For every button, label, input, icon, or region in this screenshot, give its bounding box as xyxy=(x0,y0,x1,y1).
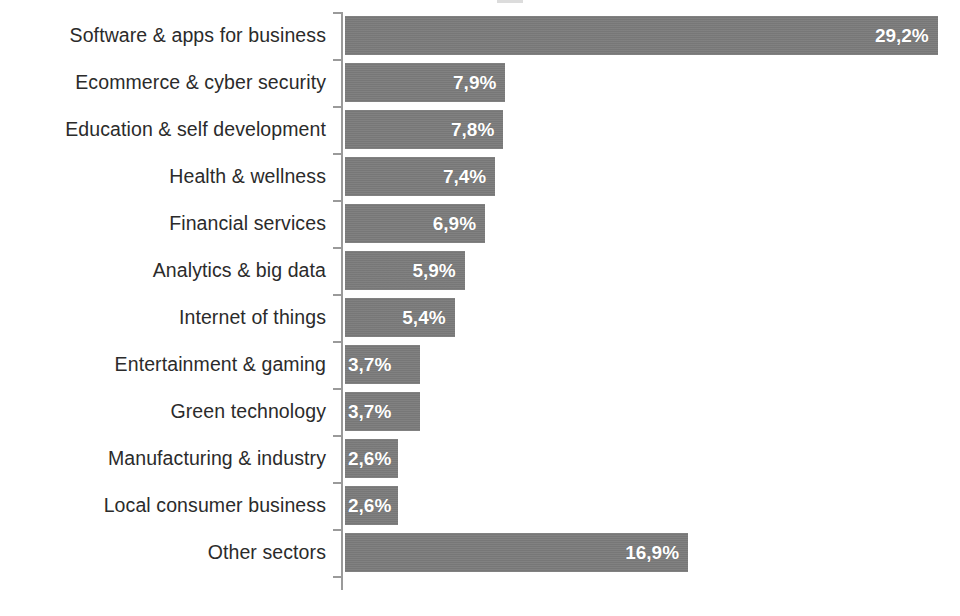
bar-value-label: 2,6% xyxy=(348,486,391,525)
bar-wrapper: 7,4% xyxy=(345,157,495,196)
bar[interactable]: 3,7% xyxy=(345,392,420,431)
axis-tick xyxy=(333,482,342,484)
bar[interactable]: 7,9% xyxy=(345,63,505,102)
axis-tick xyxy=(333,153,342,155)
bar[interactable]: 5,9% xyxy=(345,251,465,290)
bar-wrapper: 29,2% xyxy=(345,16,938,55)
bar-rows: Software & apps for business29,2%Ecommer… xyxy=(0,12,960,590)
bar-wrapper: 16,9% xyxy=(345,533,688,572)
clipped-title-remnant xyxy=(497,0,523,3)
bar-row: Software & apps for business29,2% xyxy=(0,12,960,59)
bar-wrapper: 2,6% xyxy=(345,486,398,525)
axis-tick xyxy=(333,59,342,61)
bar-row: Ecommerce & cyber security7,9% xyxy=(0,59,960,106)
bar-value-label: 7,9% xyxy=(453,63,496,102)
bar-value-label: 5,4% xyxy=(402,298,445,337)
axis-tick xyxy=(333,435,342,437)
bar-row: Other sectors16,9% xyxy=(0,529,960,576)
bar[interactable]: 16,9% xyxy=(345,533,688,572)
bar-value-label: 3,7% xyxy=(348,392,391,431)
axis-tick xyxy=(333,388,342,390)
bar-value-label: 3,7% xyxy=(348,345,391,384)
bar-value-label: 16,9% xyxy=(625,533,679,572)
bar-row: Green technology3,7% xyxy=(0,388,960,435)
axis-tick xyxy=(333,106,342,108)
category-label: Green technology xyxy=(0,388,326,435)
bar-row: Health & wellness7,4% xyxy=(0,153,960,200)
plot-area: Software & apps for business29,2%Ecommer… xyxy=(0,12,960,604)
bar[interactable]: 7,4% xyxy=(345,157,495,196)
category-label: Analytics & big data xyxy=(0,247,326,294)
bar[interactable]: 5,4% xyxy=(345,298,455,337)
bar-value-label: 6,9% xyxy=(433,204,476,243)
bar[interactable]: 29,2% xyxy=(345,16,938,55)
bar[interactable]: 2,6% xyxy=(345,439,398,478)
axis-tick xyxy=(333,200,342,202)
axis-tick xyxy=(333,294,342,296)
category-label: Health & wellness xyxy=(0,153,326,200)
bar-wrapper: 7,9% xyxy=(345,63,505,102)
bar-value-label: 2,6% xyxy=(348,439,391,478)
category-label: Entertainment & gaming xyxy=(0,341,326,388)
bar-wrapper: 6,9% xyxy=(345,204,485,243)
bar-value-label: 5,9% xyxy=(412,251,455,290)
bar-row: Financial services6,9% xyxy=(0,200,960,247)
bar-value-label: 7,4% xyxy=(443,157,486,196)
axis-tick xyxy=(333,12,342,14)
bar-row: Education & self development7,8% xyxy=(0,106,960,153)
category-label: Ecommerce & cyber security xyxy=(0,59,326,106)
bar-row: Analytics & big data5,9% xyxy=(0,247,960,294)
bar-wrapper: 5,4% xyxy=(345,298,455,337)
axis-tick xyxy=(333,247,342,249)
bar-wrapper: 7,8% xyxy=(345,110,503,149)
bar[interactable]: 3,7% xyxy=(345,345,420,384)
category-label: Software & apps for business xyxy=(0,12,326,59)
bar-value-label: 7,8% xyxy=(451,110,494,149)
category-label: Other sectors xyxy=(0,529,326,576)
bar-row: Manufacturing & industry2,6% xyxy=(0,435,960,482)
bar-wrapper: 2,6% xyxy=(345,439,398,478)
bar[interactable]: 6,9% xyxy=(345,204,485,243)
bar[interactable]: 7,8% xyxy=(345,110,503,149)
category-label: Internet of things xyxy=(0,294,326,341)
bar-wrapper: 3,7% xyxy=(345,392,420,431)
category-label: Local consumer business xyxy=(0,482,326,529)
axis-tick xyxy=(333,576,342,578)
bar-wrapper: 5,9% xyxy=(345,251,465,290)
bar-row: Entertainment & gaming3,7% xyxy=(0,341,960,388)
category-label: Education & self development xyxy=(0,106,326,153)
bar-chart: Software & apps for business29,2%Ecommer… xyxy=(0,0,960,616)
category-label: Manufacturing & industry xyxy=(0,435,326,482)
bar-wrapper: 3,7% xyxy=(345,345,420,384)
bar-value-label: 29,2% xyxy=(875,16,929,55)
bar-row: Local consumer business2,6% xyxy=(0,482,960,529)
bar[interactable]: 2,6% xyxy=(345,486,398,525)
category-label: Financial services xyxy=(0,200,326,247)
axis-tick xyxy=(333,341,342,343)
axis-tick xyxy=(333,529,342,531)
bar-row: Internet of things5,4% xyxy=(0,294,960,341)
